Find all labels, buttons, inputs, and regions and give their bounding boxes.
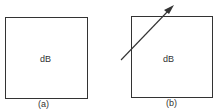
arrow-icon (0, 0, 216, 110)
